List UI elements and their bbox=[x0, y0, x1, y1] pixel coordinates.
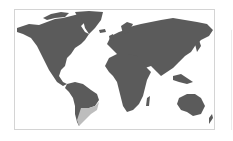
region-new-zealand bbox=[209, 114, 213, 124]
region-north-america[interactable] bbox=[17, 13, 89, 86]
world-map bbox=[15, 10, 214, 129]
region-madagascar bbox=[146, 96, 150, 106]
region-iceland bbox=[99, 29, 106, 33]
edge-divider bbox=[231, 30, 232, 130]
region-australia[interactable] bbox=[177, 94, 205, 116]
world-map-frame bbox=[14, 9, 215, 130]
region-southeast-asia bbox=[173, 74, 193, 84]
